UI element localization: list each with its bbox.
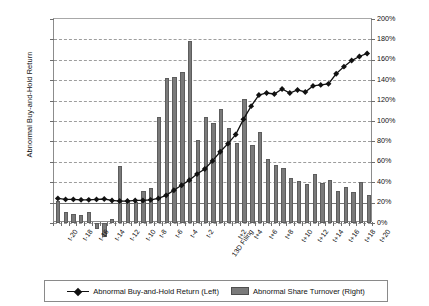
- x-axis-tick: [271, 222, 272, 226]
- y-axis-right-tick: [371, 182, 375, 183]
- y-axis-right-tick: [371, 101, 375, 102]
- plot-area: [53, 18, 372, 222]
- line-series-layer: [54, 19, 371, 222]
- legend-label-turnover: Abnormal Share Turnover (Right): [253, 287, 365, 296]
- x-axis-tick: [341, 222, 342, 226]
- x-axis-tick: [224, 222, 225, 226]
- x-axis-tick: [201, 222, 202, 226]
- y-axis-right-tick: [371, 121, 375, 122]
- line-marker: [101, 196, 107, 202]
- x-axis-tick: [209, 222, 210, 226]
- chart-figure: Abnormal Buy-and-Hold Return Abnormal Sh…: [0, 0, 429, 306]
- x-axis-tick-label: t-16: [97, 228, 110, 242]
- line-marker: [356, 54, 362, 60]
- x-axis-tick: [115, 222, 116, 226]
- x-axis-tick: [154, 222, 155, 226]
- x-axis-tick: [216, 222, 217, 226]
- x-axis-tick: [76, 222, 77, 226]
- line-marker: [86, 197, 92, 203]
- x-axis-tick: [240, 222, 241, 226]
- x-axis-tick: [318, 222, 319, 226]
- x-axis-tick: [325, 222, 326, 226]
- y-axis-right-tick-label: 20%: [377, 197, 407, 206]
- x-axis-tick: [53, 222, 54, 226]
- x-axis-tick: [162, 222, 163, 226]
- x-axis-tick: [333, 222, 334, 226]
- x-axis-tick: [131, 222, 132, 226]
- x-axis-tick: [69, 222, 70, 226]
- y-axis-right-tick-label: 180%: [377, 34, 407, 43]
- y-axis-right-tick-label: 40%: [377, 177, 407, 186]
- x-axis-tick-label: t-18: [82, 228, 95, 242]
- line-marker: [70, 196, 76, 202]
- line-marker: [148, 197, 154, 203]
- x-axis-tick: [372, 222, 373, 226]
- x-axis-tick: [349, 222, 350, 226]
- x-axis-tick: [263, 222, 264, 226]
- y-axis-right-tick: [371, 162, 375, 163]
- line-marker: [109, 197, 115, 203]
- x-axis-tick: [177, 222, 178, 226]
- y-axis-right-tick-label: 0%: [377, 218, 407, 227]
- line-marker: [132, 197, 138, 203]
- bar: [95, 223, 99, 229]
- line-marker: [264, 90, 270, 96]
- line-marker: [78, 197, 84, 203]
- x-axis-tick: [255, 222, 256, 226]
- x-axis-tick: [356, 222, 357, 226]
- legend-item-return: Abnormal Buy-and-Hold Return (Left): [67, 287, 219, 296]
- x-axis-tick: [286, 222, 287, 226]
- line-marker: [240, 116, 246, 122]
- x-axis-tick: [364, 222, 365, 226]
- x-axis-tick-label: t-10: [144, 228, 157, 242]
- x-axis-tick: [61, 222, 62, 226]
- y-axis-right-tick: [371, 60, 375, 61]
- line-marker: [63, 196, 69, 202]
- y-axis-right-tick-label: 100%: [377, 116, 407, 125]
- x-axis-tick: [232, 222, 233, 226]
- line-marker: [364, 51, 370, 57]
- x-axis-tick-label: t-2: [204, 228, 214, 239]
- x-axis-tick-label: t+18: [362, 228, 376, 243]
- line-marker: [155, 195, 161, 201]
- x-axis-tick-label: t-8: [158, 228, 168, 239]
- x-axis-tick-label: t-6: [173, 228, 183, 239]
- x-axis-tick: [84, 222, 85, 226]
- line-marker: [318, 82, 324, 88]
- line-marker: [117, 198, 123, 204]
- x-axis-tick: [185, 222, 186, 226]
- x-axis-tick: [248, 222, 249, 226]
- line-marker: [124, 198, 130, 204]
- x-axis-tick-label: t+8: [283, 228, 294, 240]
- x-axis-tick: [193, 222, 194, 226]
- x-axis-tick-label: t+16: [347, 228, 361, 243]
- y-axis-right-tick: [371, 141, 375, 142]
- x-axis-tick-label: t-12: [128, 228, 141, 242]
- x-axis-tick-label: t-14: [113, 228, 126, 242]
- y-axis-right-tick-label: 80%: [377, 136, 407, 145]
- x-axis-tick: [92, 222, 93, 226]
- y-axis-right-tick-label: 120%: [377, 95, 407, 104]
- x-axis-tick-label: t+10: [300, 228, 314, 243]
- line-marker: [94, 196, 100, 202]
- x-axis-tick: [100, 222, 101, 226]
- y-axis-right-tick: [371, 19, 375, 20]
- x-axis-tick: [279, 222, 280, 226]
- x-axis-tick-label: t+14: [331, 228, 345, 243]
- y-axis-right-tick-label: 160%: [377, 54, 407, 63]
- legend-item-turnover: Abnormal Share Turnover (Right): [231, 287, 365, 296]
- y-axis-right-tick-label: 60%: [377, 156, 407, 165]
- x-axis-tick: [123, 222, 124, 226]
- x-axis-tick: [302, 222, 303, 226]
- x-axis-tick-label: t-20: [66, 228, 79, 242]
- y-axis-right-tick: [371, 80, 375, 81]
- x-axis-tick: [146, 222, 147, 226]
- line-diamond-icon: [67, 288, 89, 295]
- bar-swatch-icon: [231, 287, 249, 295]
- x-axis-tick-label: t+12: [316, 228, 330, 243]
- y-axis-right-tick-label: 200%: [377, 14, 407, 23]
- x-axis-tick-label: t+4: [252, 228, 263, 240]
- line-marker: [295, 87, 301, 93]
- x-axis-tick-label: t+20: [378, 228, 392, 243]
- x-axis-tick: [107, 222, 108, 226]
